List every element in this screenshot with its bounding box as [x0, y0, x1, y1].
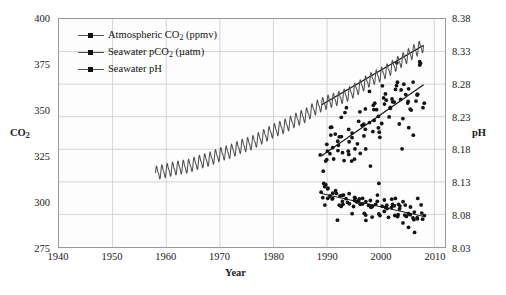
x-axis-tick: 1940: [38, 252, 78, 263]
legend: Atmospheric CO2 (ppmv) Seawater pCO2 (µa…: [78, 27, 278, 78]
legend-label: Atmospheric CO2 (ppmv): [108, 30, 217, 42]
x-axis-tick: 1960: [146, 252, 186, 263]
y-axis-right-tick: 8.38: [452, 14, 492, 25]
x-axis-tick: 1950: [92, 252, 132, 263]
y-axis-right-title: pH: [472, 128, 486, 139]
chart-figure: 400 375 350 325 300 275 8.38 8.33 8.28 8…: [0, 0, 506, 295]
y-axis-left-tick: 325: [4, 152, 50, 163]
x-axis-tick: 2000: [361, 252, 401, 263]
legend-label: Seawater pH: [108, 64, 162, 75]
series-seawater-ph-points: [319, 182, 426, 235]
legend-marker-line-square-icon: [78, 31, 104, 41]
y-axis-right-tick: 8.33: [452, 47, 492, 58]
y-axis-left-tick: 375: [4, 60, 50, 71]
legend-label: Seawater pCO2 (µatm): [108, 47, 204, 59]
legend-label-tail: (ppmv): [183, 29, 217, 40]
y-axis-right-tick: 8.23: [452, 113, 492, 124]
legend-label-main: Seawater pCO: [108, 46, 169, 57]
legend-label-main: Atmospheric CO: [108, 29, 179, 40]
y-axis-left-title: CO2: [10, 128, 30, 140]
x-axis-tick: 1980: [253, 252, 293, 263]
legend-item-seawater-pco2: Seawater pCO2 (µatm): [78, 44, 278, 61]
y-axis-left-title-text: CO: [10, 127, 26, 138]
page-artifact: [14, 281, 98, 288]
y-axis-right-tick: 8.13: [452, 178, 492, 189]
y-axis-left-tick: 400: [4, 14, 50, 25]
legend-label-main: Seawater pH: [108, 63, 162, 74]
y-axis-left-tick: 300: [4, 198, 50, 209]
x-axis-tick: 2010: [415, 252, 455, 263]
y-axis-right-tick: 8.08: [452, 211, 492, 222]
legend-marker-line-square-icon: [78, 48, 104, 58]
x-axis-tick: 1970: [200, 252, 240, 263]
x-axis-tick: 1990: [307, 252, 347, 263]
y-axis-right-tick: 8.18: [452, 145, 492, 156]
x-axis-title: Year: [225, 268, 246, 279]
y-axis-right-tick: 8.03: [452, 244, 492, 255]
legend-item-atmospheric-co2: Atmospheric CO2 (ppmv): [78, 27, 278, 44]
y-axis-left-title-subscript: 2: [26, 131, 30, 140]
legend-item-seawater-ph: Seawater pH: [78, 61, 278, 78]
legend-label-tail: (µatm): [173, 46, 204, 57]
y-axis-right-tick: 8.28: [452, 80, 492, 91]
legend-marker-line-square-icon: [78, 65, 104, 75]
y-axis-left-tick: 350: [4, 106, 50, 117]
series-seawater-pco2-points: [318, 60, 426, 200]
